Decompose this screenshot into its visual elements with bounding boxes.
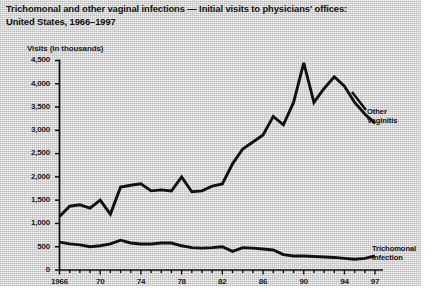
x-axis-tick-label: 86 xyxy=(245,277,281,286)
series-label-other-vaginitis-line-2: Vaginitis xyxy=(367,117,397,126)
y-axis-tick-label: 4,500 xyxy=(18,55,50,64)
x-axis-tick-label: 97 xyxy=(357,277,393,286)
x-axis-tick-label: 70 xyxy=(82,277,118,286)
x-axis-tick-label: 82 xyxy=(204,277,240,286)
y-axis-tick-label: 0 xyxy=(18,265,50,274)
y-axis-tick-label: 500 xyxy=(18,242,50,251)
x-axis-tick-label: 74 xyxy=(123,277,159,286)
y-axis-tick-label: 4,000 xyxy=(18,79,50,88)
y-axis-tick-label: 2,000 xyxy=(18,172,50,181)
paper-bottom-margin xyxy=(0,286,448,305)
y-axis-tick-label: 2,500 xyxy=(18,148,50,157)
x-axis-tick-label: 1966 xyxy=(42,277,78,286)
figure-container: Trichomonal and other vaginal infections… xyxy=(0,0,448,305)
y-axis-tick-label: 3,500 xyxy=(18,102,50,111)
y-axis-tick-label: 1,000 xyxy=(18,218,50,227)
series-label-other-vaginitis: Other Vaginitis xyxy=(367,108,397,125)
series-label-trichomonal-infection: Trichomonal Infection xyxy=(372,245,416,262)
x-axis-tick-label: 78 xyxy=(164,277,200,286)
y-axis-tick-label: 1,500 xyxy=(18,195,50,204)
y-axis-tick-label: 3,000 xyxy=(18,125,50,134)
chart-series xyxy=(60,63,376,259)
chart-axes xyxy=(55,60,383,275)
paper-right-margin xyxy=(421,0,448,305)
x-axis-tick-label: 90 xyxy=(286,277,322,286)
series-label-trichomonal-line-2: Infection xyxy=(372,254,416,263)
